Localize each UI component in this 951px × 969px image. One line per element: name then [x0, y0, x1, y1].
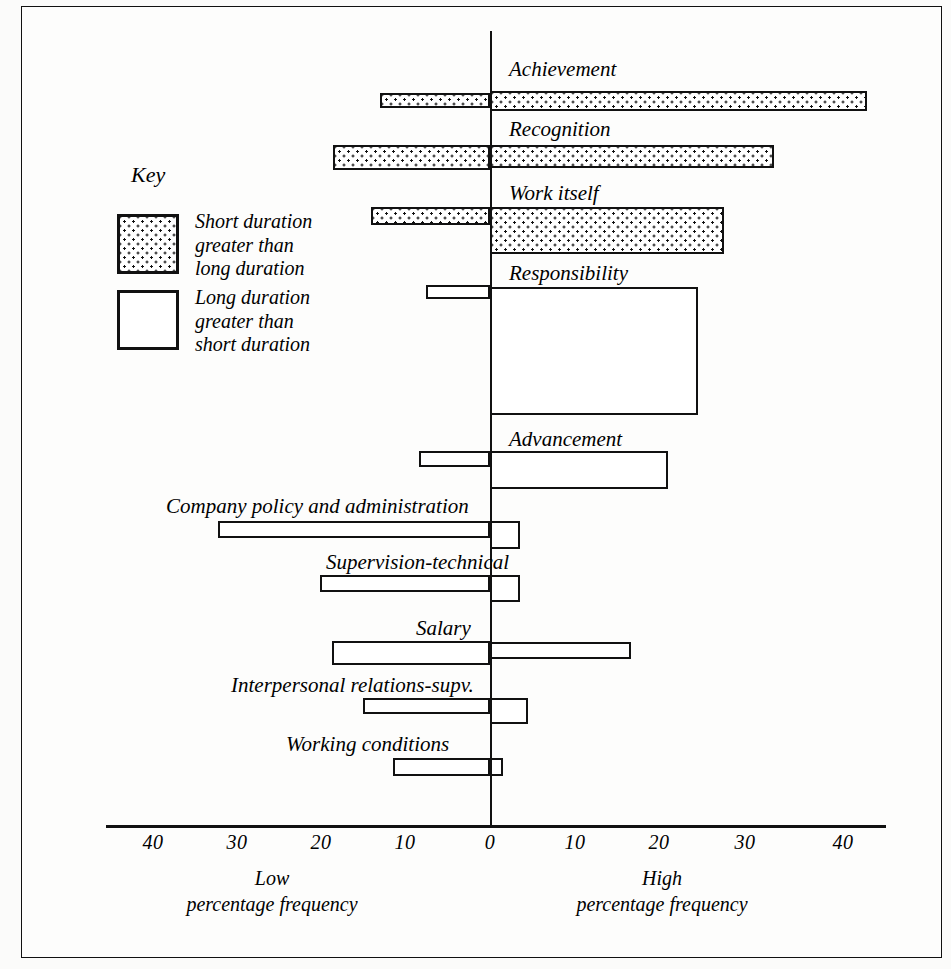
bar-high — [490, 521, 520, 549]
x-axis-tick-label: 20 — [639, 831, 679, 854]
bar-low — [363, 698, 490, 714]
bar-high — [490, 758, 503, 776]
bar-low — [371, 207, 490, 225]
bar-low — [426, 285, 490, 299]
legend-item-short-duration-label: Short duration greater than long duratio… — [195, 210, 312, 281]
x-axis-tick-label: 10 — [555, 831, 595, 854]
x-axis-caption-high-line2: percentage frequency — [522, 891, 802, 917]
x-axis-caption-high-line1: High — [522, 865, 802, 891]
x-axis-caption-low-line1: Low — [132, 865, 412, 891]
x-axis-tick-label: 30 — [217, 831, 257, 854]
legend-line-2: greater than — [195, 234, 312, 258]
bar-category-label: Supervision-technical — [326, 552, 509, 573]
bar-high — [490, 91, 867, 111]
legend-item-long-duration-label: Long duration greater than short duratio… — [195, 286, 310, 357]
legend-title: Key — [131, 162, 357, 188]
x-axis-tick-label: 30 — [725, 831, 765, 854]
bar-high — [490, 698, 528, 724]
bar-low — [320, 575, 490, 592]
bar-low — [419, 451, 490, 467]
bar-high — [490, 207, 724, 254]
x-axis-tick-label: 40 — [823, 831, 863, 854]
bar-category-label: Work itself — [509, 183, 599, 204]
bar-high — [490, 287, 698, 415]
legend-swatch-white-icon — [117, 290, 179, 350]
x-axis-tick-label: 10 — [385, 831, 425, 854]
bar-category-label: Working conditions — [286, 734, 449, 755]
bar-category-label: Interpersonal relations-supv. — [231, 675, 474, 696]
page-background: Key Short duration greater than long dur… — [0, 0, 951, 969]
bar-low — [333, 145, 490, 170]
bar-category-label: Advancement — [509, 429, 622, 450]
bar-high — [490, 642, 631, 659]
x-axis-tick-label: 20 — [301, 831, 341, 854]
bar-category-label: Salary — [416, 618, 471, 639]
legend-line-3: long duration — [195, 257, 312, 281]
legend-line-1: Short duration — [195, 210, 312, 234]
bar-category-label: Achievement — [509, 59, 616, 80]
bar-high — [490, 575, 520, 602]
x-axis-caption-high: High percentage frequency — [522, 865, 802, 917]
bar-low — [332, 641, 490, 665]
legend-line-2: greater than — [195, 310, 310, 334]
x-axis-caption-low-line2: percentage frequency — [132, 891, 412, 917]
bar-low — [218, 521, 490, 538]
bar-low — [380, 93, 490, 108]
legend-line-1: Long duration — [195, 286, 310, 310]
x-axis-rule — [106, 825, 886, 828]
figure-frame: Key Short duration greater than long dur… — [21, 6, 942, 958]
chart-legend: Key Short duration greater than long dur… — [117, 162, 357, 188]
bar-category-label: Recognition — [509, 119, 610, 140]
bar-high — [490, 145, 774, 168]
bar-low — [393, 758, 490, 776]
x-axis-caption-low: Low percentage frequency — [132, 865, 412, 917]
legend-swatch-dotted-icon — [117, 214, 179, 274]
legend-line-3: short duration — [195, 333, 310, 357]
chart-plot-area: Key Short duration greater than long dur… — [22, 7, 943, 959]
bar-high — [490, 451, 668, 489]
x-axis-tick-label: 40 — [133, 831, 173, 854]
bar-category-label: Company policy and administration — [166, 496, 469, 517]
x-axis-tick-label: 0 — [470, 831, 510, 854]
bar-category-label: Responsibility — [509, 263, 628, 284]
